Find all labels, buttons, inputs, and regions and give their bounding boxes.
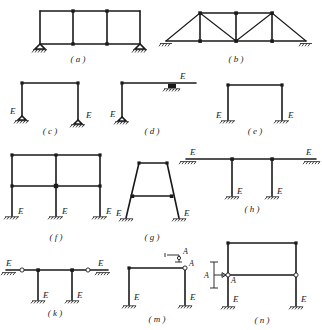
panel-f: E E E ( f ) (4, 153, 112, 242)
panel-f-joint (98, 184, 101, 187)
panel-m-e-label-left: E (133, 292, 140, 302)
panel-h-e-label-left: E (189, 147, 196, 157)
panel-b-joint (198, 39, 202, 43)
panel-c-joint (20, 81, 23, 84)
panel-f-support-right (92, 217, 107, 220)
panel-d-e-label-top: E (179, 71, 186, 81)
panel-e-support-right (274, 121, 289, 124)
panel-g-support-left (119, 219, 133, 222)
panel-n-caption: ( n ) (255, 315, 270, 325)
panel-b-end-diagonal-left (166, 13, 200, 41)
panel-m-support-left (122, 306, 136, 309)
panel-n-section-dimension (210, 262, 226, 288)
panel-h-joint (270, 157, 274, 161)
panel-n-section-mark: A (203, 271, 209, 280)
panel-f-e-label-left: E (17, 206, 24, 216)
panel-g-joint (165, 161, 168, 164)
panel-h-e-label-col2: E (276, 186, 283, 196)
panel-m-support-right (178, 306, 192, 309)
panel-n-hinge-right (294, 273, 298, 277)
panel-g-joint (137, 161, 140, 164)
panel-k-caption: ( k ) (48, 308, 63, 318)
panel-d-joint (120, 81, 123, 84)
panel-c-support-right (70, 120, 85, 127)
panel-m-hinge-corner (183, 266, 187, 270)
panel-b-caption: ( b ) (229, 54, 244, 64)
panel-a-support-left (32, 44, 47, 53)
panel-h-caption: ( h ) (245, 204, 260, 214)
panel-h: E E E E ( h ) (179, 147, 320, 214)
panel-h-e-label-right: E (305, 147, 312, 157)
panel-f-support-left (4, 217, 19, 220)
panel-c-joint (76, 81, 79, 84)
panel-m-section-detail (165, 253, 182, 262)
panel-b-support-left (159, 44, 172, 47)
panel-k-support-col-2 (65, 301, 79, 304)
panel-h-support-col-1 (225, 197, 239, 200)
panel-b-joint (234, 39, 238, 43)
panel-k-support-col-1 (31, 301, 45, 304)
panel-d-support-pin (114, 117, 129, 124)
panel-n-joint (294, 241, 297, 244)
panel-k-hinge-right (86, 268, 90, 272)
panel-g-joint (170, 194, 174, 198)
panel-e-joint (226, 83, 229, 86)
panel-m-detail-hinge (177, 256, 180, 259)
panel-f-support-middle (48, 217, 63, 220)
panel-m-joint (127, 266, 130, 269)
panel-d: E E ( d ) (109, 71, 196, 136)
panel-c-support-left (14, 116, 29, 123)
panel-m-section-mark-corner: A (188, 259, 194, 268)
panel-h-e-label-col1: E (236, 186, 243, 196)
panel-e-support-left (220, 121, 235, 124)
panel-g-support-right (172, 219, 186, 222)
panel-e-e-label-right: E (287, 110, 294, 120)
panel-h-joint (230, 157, 234, 161)
panel-b: ( b ) (159, 11, 312, 64)
panel-n-e-label-right: E (300, 294, 307, 304)
panel-k: E E E E ( k ) (1, 258, 110, 318)
panel-n-section-mark-inner: A (230, 276, 236, 285)
panel-a-support-right (132, 44, 147, 53)
panel-k-e-label-right: E (97, 258, 104, 268)
panel-f-joint (10, 184, 13, 187)
panel-c-e-label-left: E (9, 106, 16, 116)
panel-m-caption: ( m ) (149, 314, 166, 324)
panel-d-roller-block (168, 84, 176, 88)
panel-e-e-label-left: E (215, 110, 222, 120)
panel-b-support-right (299, 44, 312, 47)
panel-b-joint (270, 11, 274, 15)
panel-a-joint (105, 9, 108, 12)
panel-g-joint (131, 194, 135, 198)
panel-f-joint (98, 153, 101, 156)
panel-n-joint (226, 241, 229, 244)
panel-b-joint (234, 11, 238, 15)
panel-k-joint (36, 268, 40, 272)
panel-a-caption: ( a ) (71, 54, 86, 64)
panel-f-caption: ( f ) (50, 232, 63, 242)
panel-h-support-roller-right (303, 162, 320, 165)
panel-d-caption: ( d ) (145, 126, 160, 136)
panel-k-e-label-left: E (5, 258, 12, 268)
panel-e-joint (280, 83, 283, 86)
panel-c-caption: ( c ) (43, 126, 58, 136)
panel-e: E E ( e ) (215, 83, 294, 136)
panel-f-joint (10, 153, 13, 156)
panel-a: ( a ) (32, 9, 147, 64)
panel-k-e-label-col2: E (76, 290, 83, 300)
panel-c: E E ( c ) (9, 81, 92, 136)
panel-k-support-roller-left (1, 273, 16, 276)
panel-b-web-diagonal-2 (236, 13, 272, 41)
panel-b-joint (198, 11, 202, 15)
panel-a-joint (105, 42, 108, 45)
panel-n: A A E E ( n ) (203, 241, 307, 325)
panel-m: A A E E ( m ) (122, 247, 196, 324)
panel-f-joint (54, 153, 57, 156)
panel-g-e-label-left: E (115, 208, 122, 218)
panel-n-e-label-left: E (232, 294, 239, 304)
panel-m-section-mark-top: A (182, 247, 188, 256)
panel-g-leg-right (167, 163, 179, 218)
panel-k-support-roller-right (95, 273, 110, 276)
panel-f-e-label-middle: E (61, 206, 68, 216)
panel-b-joint (270, 39, 274, 43)
